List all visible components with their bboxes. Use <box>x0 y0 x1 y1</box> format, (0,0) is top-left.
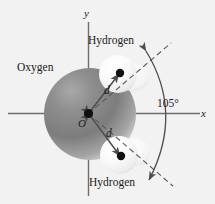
hydrogen-top-label: Hydrogen <box>88 35 134 47</box>
bond-angle-label: 105° <box>157 98 179 110</box>
x-axis-label: x <box>201 108 206 119</box>
water-molecule-figure: Oxygen Hydrogen Hydrogen 105° y x O d d <box>0 0 215 204</box>
bond-length-top-label: d <box>104 85 110 97</box>
origin-label: O <box>78 118 86 129</box>
hydrogen-top-nucleus <box>116 69 124 77</box>
hydrogen-bottom-nucleus <box>117 152 125 160</box>
bond-angle-arc <box>146 51 166 180</box>
y-axis-label: y <box>84 8 89 19</box>
bond-length-bottom-label: d <box>106 128 112 140</box>
figure-canvas <box>0 0 215 204</box>
hydrogen-bottom-label: Hydrogen <box>89 177 135 189</box>
oxygen-label: Oxygen <box>17 62 53 74</box>
